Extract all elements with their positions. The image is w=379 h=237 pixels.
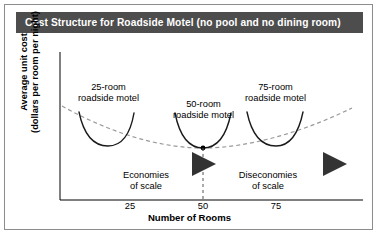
annotation-50-room-line2: roadside motel [157,110,250,121]
x-tick-label-75: 75 [261,201,291,211]
annotation-25-room-line2: roadside motel [62,93,155,104]
cost-structure-figure: Cost Structure for Roadside Motel (no po… [0,0,379,237]
diseconomies-line1: Diseconomies [213,170,323,181]
annotation-75-room-line2: roadside motel [229,93,322,104]
x-axis-label: Number of Rooms [0,212,379,223]
annotation-75-room-motel: 75-room roadside motel [229,82,322,104]
x-tick-label-25: 25 [115,201,145,211]
annotation-diseconomies-of-scale: Diseconomies of scale [213,170,323,192]
srac-curve-25-room [79,112,134,146]
diseconomies-line2: of scale [213,181,323,192]
annotation-economies-of-scale: Economies of scale [98,170,194,192]
annotation-25-room-motel: 25-room roadside motel [62,82,155,104]
annotation-25-room-line1: 25-room [62,82,155,93]
economies-line2: of scale [98,181,194,192]
annotation-75-room-line1: 75-room [229,82,322,93]
economies-line1: Economies [98,170,194,181]
srac-curve-75-room [247,112,303,146]
x-tick-label-50: 50 [188,201,218,211]
